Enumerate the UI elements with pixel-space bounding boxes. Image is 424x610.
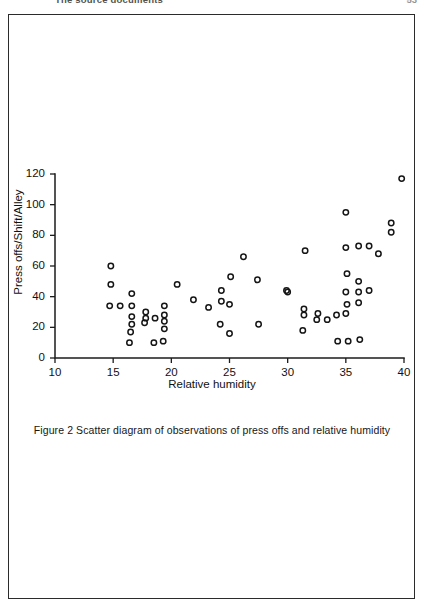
figure-caption: Figure 2 Scatter diagram of observations… [0,424,424,436]
figure-frame [8,14,415,599]
running-head: The source documents [55,0,163,5]
y-tick-label: 0 [11,351,45,363]
x-tick-label: 15 [96,366,130,378]
page-header: The source documents 53 [0,0,424,8]
x-tick-label: 35 [329,366,363,378]
y-axis-title: Press offs/Shift/Alley [12,162,24,322]
x-tick-label: 30 [271,366,305,378]
x-tick-label: 20 [154,366,188,378]
x-tick-label: 25 [213,366,247,378]
x-axis-title: Relative humidity [0,378,424,390]
page-number: 53 [406,0,417,5]
y-tick-label: 20 [11,320,45,332]
x-tick-label: 10 [38,366,72,378]
x-tick-label: 40 [387,366,421,378]
